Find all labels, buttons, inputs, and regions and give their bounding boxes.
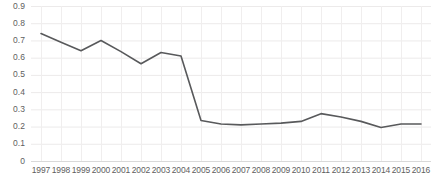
y-axis-tick-label: 0 — [0, 157, 28, 166]
x-axis-tick-label: 2008 — [251, 165, 271, 175]
x-axis-tick-label: 2004 — [171, 165, 191, 175]
x-axis-tick-label: 2014 — [371, 165, 391, 175]
data-line-series-1 — [41, 34, 421, 128]
y-axis-tick-label: 0.7 — [0, 36, 28, 45]
x-axis-tick-label: 2007 — [231, 165, 251, 175]
x-axis-tick-label: 2001 — [111, 165, 131, 175]
x-axis-tick-label: 2011 — [311, 165, 331, 175]
y-axis-tick-label: 0.4 — [0, 88, 28, 97]
x-axis-tick-label: 1998 — [51, 165, 71, 175]
x-axis-tick-label: 2015 — [391, 165, 411, 175]
y-axis-tick-label: 0.9 — [0, 2, 28, 11]
y-axis: 00.10.20.30.40.50.60.70.80.9 — [0, 0, 28, 186]
y-axis-tick-label: 0.5 — [0, 70, 28, 79]
line-chart: 00.10.20.30.40.50.60.70.80.9 19971998199… — [0, 0, 445, 186]
x-axis-tick-label: 1997 — [31, 165, 51, 175]
x-axis-tick-label: 2005 — [191, 165, 211, 175]
plot-area — [31, 6, 431, 161]
x-axis-tick-label: 2000 — [91, 165, 111, 175]
x-axis-tick-label: 2012 — [331, 165, 351, 175]
x-axis-tick-label: 2003 — [151, 165, 171, 175]
x-axis-tick-label: 2009 — [271, 165, 291, 175]
y-axis-tick-label: 0.1 — [0, 139, 28, 148]
y-axis-tick-label: 0.3 — [0, 105, 28, 114]
x-axis-tick-label: 1999 — [71, 165, 91, 175]
series-layer — [31, 6, 431, 161]
y-axis-tick-label: 0.2 — [0, 122, 28, 131]
y-axis-tick-label: 0.8 — [0, 19, 28, 28]
x-axis-tick-label: 2002 — [131, 165, 151, 175]
x-axis-tick-label: 2006 — [211, 165, 231, 175]
x-axis-tick-label: 2016 — [411, 165, 431, 175]
x-axis-tick-label: 2013 — [351, 165, 371, 175]
y-axis-tick-label: 0.6 — [0, 53, 28, 62]
x-axis-tick-label: 2010 — [291, 165, 311, 175]
x-axis: 1997199819992000200120022003200420052006… — [31, 165, 431, 179]
